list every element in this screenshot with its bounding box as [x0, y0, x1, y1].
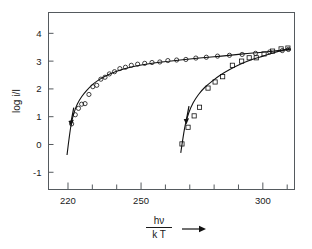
- plot-frame: [49, 13, 295, 190]
- x-axis-ticks: [68, 183, 287, 190]
- chart-svg: -101234 220250300 log i/I hν k T: [0, 0, 312, 249]
- y-tick-label: 3: [36, 56, 41, 67]
- fit-curve: [67, 49, 291, 155]
- y-tick-label: 2: [36, 83, 41, 94]
- data-point-circle: [95, 83, 99, 87]
- x-axis-label-numerator: hν: [154, 215, 165, 226]
- y-tick-label: 1: [36, 111, 41, 122]
- y-tick-label: 4: [36, 28, 41, 39]
- series-threshold-arrows: [68, 106, 189, 126]
- fit-curve: [181, 48, 290, 152]
- x-tick-label: 300: [255, 195, 271, 206]
- x-tick-label: 220: [60, 195, 76, 206]
- series-data-markers: [70, 46, 291, 146]
- y-axis-tick-labels: -101234: [33, 28, 41, 178]
- data-point-square: [197, 105, 201, 109]
- y-axis-ticks: [49, 33, 54, 172]
- data-point-square: [192, 114, 196, 118]
- chart-figure: -101234 220250300 log i/I hν k T: [0, 0, 312, 249]
- y-tick-label: -1: [33, 167, 41, 178]
- x-axis-label-denominator: k T: [152, 229, 166, 240]
- data-point-circle: [87, 92, 91, 96]
- data-point-square: [221, 75, 225, 79]
- x-axis-tick-labels: 220250300: [60, 195, 271, 206]
- y-tick-label: 0: [36, 139, 41, 150]
- data-point-circle: [76, 106, 80, 110]
- y-axis-label: log i/I: [11, 89, 22, 113]
- x-tick-label: 250: [133, 195, 149, 206]
- series-fit-curves: [67, 48, 291, 155]
- data-point-square: [206, 86, 210, 90]
- x-axis-label-arrow-icon: [182, 226, 206, 232]
- data-point-square: [247, 56, 251, 60]
- data-point-square: [186, 125, 190, 129]
- x-axis-label: hν k T: [146, 215, 206, 240]
